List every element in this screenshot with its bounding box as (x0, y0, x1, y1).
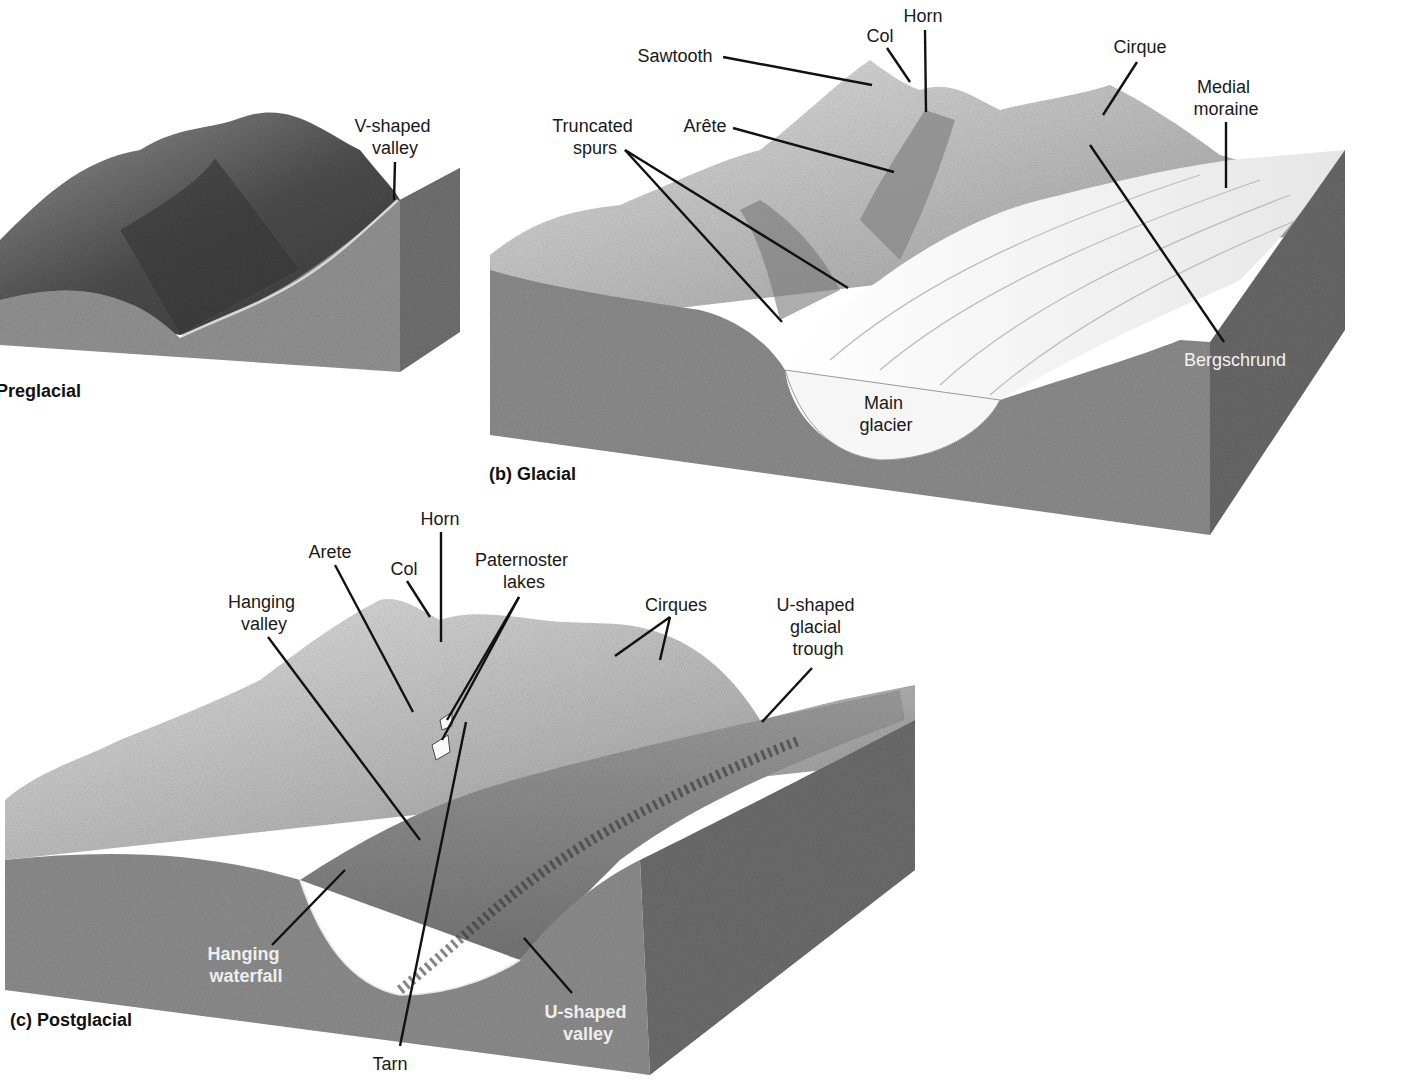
label-arete: Arête (683, 116, 726, 136)
label-bergschrund: Bergschrund (1184, 350, 1286, 370)
label-horn: Horn (903, 6, 942, 26)
label-tarn: Tarn (372, 1054, 407, 1074)
caption-preglacial: Preglacial (0, 381, 81, 401)
preglacial-side-face (400, 168, 460, 372)
label-cirques: Cirques (645, 595, 707, 615)
label-horn-c: Horn (420, 509, 459, 529)
label-truncated-spurs: Truncated spurs (552, 116, 637, 158)
label-medial-moraine: Medial moraine (1193, 77, 1258, 119)
label-sawtooth: Sawtooth (637, 46, 712, 66)
panel-postglacial (5, 599, 915, 1075)
caption-glacial: (b) Glacial (489, 464, 576, 484)
label-cirque: Cirque (1113, 37, 1166, 57)
glacial-landforms-figure: V-shaped valley Preglacial Sawtooth Col … (0, 0, 1416, 1088)
label-paternoster-lakes: Paternoster lakes (475, 550, 573, 592)
label-col-c: Col (390, 559, 417, 579)
label-u-shaped-glacial-trough: U-shaped glacial trough (776, 595, 859, 659)
label-hanging-valley: Hanging valley (228, 592, 300, 634)
label-col: Col (866, 26, 893, 46)
caption-postglacial: (c) Postglacial (10, 1010, 132, 1030)
label-arete-c: Arete (308, 542, 351, 562)
label-v-shaped-valley: V-shaped valley (354, 116, 435, 158)
